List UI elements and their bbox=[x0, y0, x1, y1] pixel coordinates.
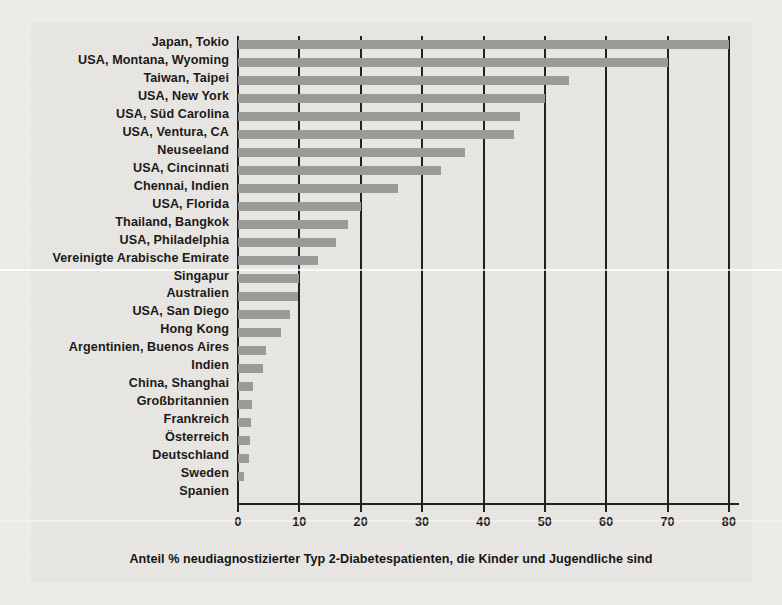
bar bbox=[238, 220, 348, 229]
bar-row: Hong Kong bbox=[238, 323, 729, 341]
bar-row: USA, Ventura, CA bbox=[238, 126, 729, 144]
bar-row: Österreich bbox=[238, 431, 729, 449]
category-label: Singapur bbox=[174, 269, 229, 283]
bar-row: Vereinigte Arabische Emirate bbox=[238, 252, 729, 270]
bar bbox=[238, 202, 361, 211]
category-label: Taiwan, Taipei bbox=[143, 71, 229, 85]
bar-row: Taiwan, Taipei bbox=[238, 72, 729, 90]
bar bbox=[238, 58, 668, 67]
bar bbox=[238, 256, 318, 265]
tick-40 bbox=[483, 503, 485, 512]
category-label: Spanien bbox=[179, 484, 229, 498]
bar bbox=[238, 472, 244, 481]
bar bbox=[238, 112, 520, 121]
bar bbox=[238, 382, 253, 391]
bar-row: Frankreich bbox=[238, 413, 729, 431]
x-tick-label: 50 bbox=[538, 515, 552, 529]
bar bbox=[238, 238, 336, 247]
category-label: USA, San Diego bbox=[132, 304, 229, 318]
x-tick-label: 70 bbox=[660, 515, 674, 529]
bar bbox=[238, 292, 298, 301]
bar bbox=[238, 148, 465, 157]
bar bbox=[238, 400, 252, 409]
category-label: USA, Philadelphia bbox=[120, 233, 229, 247]
bar-row: Sweden bbox=[238, 467, 729, 485]
bar-row: Singapur bbox=[238, 270, 729, 288]
bar-row: Indien bbox=[238, 359, 729, 377]
category-label: Chennai, Indien bbox=[134, 179, 229, 193]
bar-row: Deutschland bbox=[238, 449, 729, 467]
category-label: Australien bbox=[166, 286, 229, 300]
x-tick-label: 10 bbox=[292, 515, 306, 529]
bar-row: Australien bbox=[238, 287, 729, 305]
bar bbox=[238, 346, 266, 355]
tick-80 bbox=[728, 503, 730, 512]
tick-10 bbox=[298, 503, 300, 512]
category-label: USA, Ventura, CA bbox=[122, 125, 229, 139]
category-label: Japan, Tokio bbox=[152, 35, 229, 49]
bar-row: Japan, Tokio bbox=[238, 36, 729, 54]
bar-row: Chennai, Indien bbox=[238, 180, 729, 198]
category-label: Indien bbox=[191, 358, 229, 372]
bar bbox=[238, 40, 729, 49]
tick-0 bbox=[237, 503, 239, 512]
bar-row: Thailand, Bangkok bbox=[238, 216, 729, 234]
x-tick-label: 60 bbox=[599, 515, 613, 529]
category-label: Sweden bbox=[181, 466, 229, 480]
bar-row: China, Shanghai bbox=[238, 377, 729, 395]
bar-chart-plot-area: 01020304050607080 Japan, TokioUSA, Monta… bbox=[238, 36, 729, 503]
bar-row: Spanien bbox=[238, 485, 729, 503]
bar bbox=[238, 310, 290, 319]
bar bbox=[238, 166, 441, 175]
bar-row: USA, Florida bbox=[238, 198, 729, 216]
tick-50 bbox=[544, 503, 546, 512]
category-label: Neuseeland bbox=[157, 143, 229, 157]
bar bbox=[238, 274, 299, 283]
bar-row: USA, San Diego bbox=[238, 305, 729, 323]
bar-row: USA, Süd Carolina bbox=[238, 108, 729, 126]
tick-70 bbox=[667, 503, 669, 512]
bar-row: Argentinien, Buenos Aires bbox=[238, 341, 729, 359]
category-label: USA, Florida bbox=[152, 197, 229, 211]
category-label: China, Shanghai bbox=[129, 376, 229, 390]
bar-row: USA, Philadelphia bbox=[238, 234, 729, 252]
tick-30 bbox=[421, 503, 423, 512]
category-label: Deutschland bbox=[152, 448, 229, 462]
x-tick-label: 40 bbox=[476, 515, 490, 529]
bar bbox=[238, 130, 514, 139]
category-label: Großbritannien bbox=[137, 394, 229, 408]
category-label: Thailand, Bangkok bbox=[115, 215, 229, 229]
bar bbox=[238, 184, 398, 193]
x-axis-line bbox=[237, 503, 739, 505]
category-label: Argentinien, Buenos Aires bbox=[69, 340, 229, 354]
bar-row: Großbritannien bbox=[238, 395, 729, 413]
bar bbox=[238, 94, 545, 103]
bar-row: Neuseeland bbox=[238, 144, 729, 162]
bar-row: USA, New York bbox=[238, 90, 729, 108]
tick-20 bbox=[360, 503, 362, 512]
x-tick-label: 30 bbox=[415, 515, 429, 529]
bar bbox=[238, 76, 569, 85]
category-label: Hong Kong bbox=[160, 322, 229, 336]
x-tick-label: 0 bbox=[234, 515, 241, 529]
category-label: Vereinigte Arabische Emirate bbox=[52, 251, 229, 265]
bar bbox=[238, 418, 251, 427]
category-label: USA, Süd Carolina bbox=[116, 107, 229, 121]
tick-60 bbox=[605, 503, 607, 512]
bar bbox=[238, 436, 250, 445]
scanned-page: und rhoben . Dies wird nach Text liegt h… bbox=[0, 0, 782, 605]
bar bbox=[238, 328, 281, 337]
bar bbox=[238, 364, 263, 373]
category-label: USA, Cincinnati bbox=[133, 161, 229, 175]
category-label: USA, Montana, Wyoming bbox=[78, 53, 229, 67]
category-label: Frankreich bbox=[164, 412, 229, 426]
bar-row: USA, Cincinnati bbox=[238, 162, 729, 180]
bar-row: USA, Montana, Wyoming bbox=[238, 54, 729, 72]
x-tick-label: 80 bbox=[722, 515, 736, 529]
bar bbox=[238, 454, 249, 463]
category-label: USA, New York bbox=[138, 89, 229, 103]
category-label: Österreich bbox=[165, 430, 229, 444]
x-tick-label: 20 bbox=[354, 515, 368, 529]
x-axis-label: Anteil % neudiagnostizierter Typ 2-Diabe… bbox=[0, 552, 782, 566]
